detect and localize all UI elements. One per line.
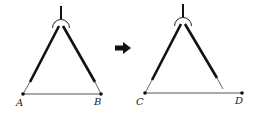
right-compass-needle-right [217,78,223,89]
label-c: C [136,96,144,107]
right-compass-hinge [175,18,192,27]
right-compass-needle-left [145,80,152,93]
right-compass-leg-left [152,24,181,80]
left-compass [23,6,101,94]
left-compass-leg-left [30,26,59,82]
point-c [143,91,147,95]
label-a: A [15,97,23,108]
left-compass-needle-right [95,82,101,94]
left-compass-leg-right [63,26,95,82]
right-compass-leg-right [185,24,217,78]
label-d: D [234,95,243,106]
right-compass [145,4,223,93]
left-compass-hinge [53,20,70,29]
left-compass-needle-left [23,82,30,94]
label-b: B [93,96,101,107]
point-a [21,92,25,96]
compass-diagram: A B C D [0,0,255,113]
arrow-right-icon [115,42,131,54]
